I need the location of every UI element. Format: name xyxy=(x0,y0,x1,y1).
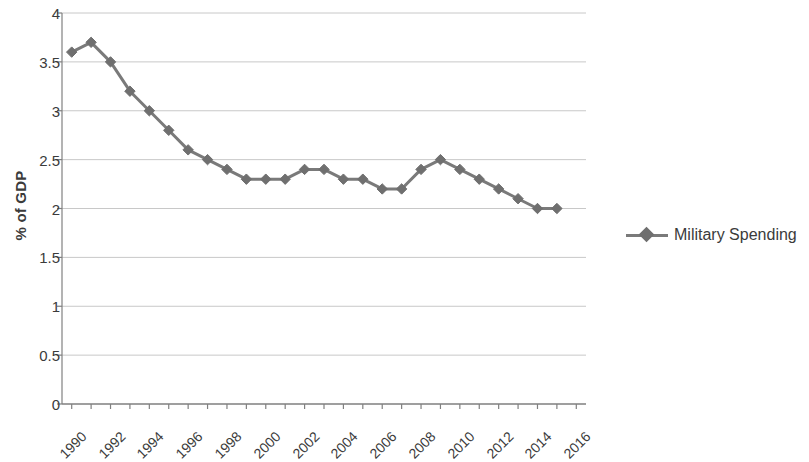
x-tick-label: 2012 xyxy=(483,428,516,461)
x-tick-label: 2002 xyxy=(289,428,322,461)
x-tick-label: 2010 xyxy=(444,428,477,461)
x-tick-label: 1990 xyxy=(56,428,89,461)
x-tick-label: 1996 xyxy=(172,428,205,461)
chart-legend: Military Spending xyxy=(626,226,797,244)
x-tick-label: 2016 xyxy=(561,428,594,461)
diamond-marker-icon xyxy=(639,227,655,243)
x-tick-label: 2000 xyxy=(250,428,283,461)
x-tick-label: 2008 xyxy=(405,428,438,461)
legend-label-military-spending: Military Spending xyxy=(674,226,797,244)
x-tick-label: 1992 xyxy=(95,428,128,461)
x-tick-label: 2006 xyxy=(367,428,400,461)
x-tick-label: 2004 xyxy=(328,428,361,461)
chart-figure: % of GDP 00.511.522.533.54 1990199219941… xyxy=(0,0,809,462)
x-tick-label: 1994 xyxy=(134,428,167,461)
x-tick-label: 1998 xyxy=(211,428,244,461)
x-tick-label: 2014 xyxy=(522,428,555,461)
legend-swatch-military-spending xyxy=(626,228,668,242)
